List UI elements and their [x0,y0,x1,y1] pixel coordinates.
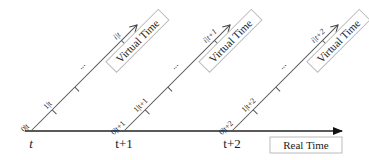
virtual-axis-t: 0|t 1|t ... i|t Virtual Time [16,0,169,149]
virtual-tick-ellipsis: ... [168,59,180,71]
real-tick-t: t [29,136,33,151]
virtual-tick-0: 0|t+1 [109,119,127,137]
virtual-tick-ellipsis: ... [276,59,288,71]
virtual-axis-t2: 0|t+2 1|t+2 ... i|t+2 Virtual Time [213,0,369,152]
real-time-label: Real Time [283,139,329,151]
virtual-tick-0: 0|t+2 [217,119,235,137]
virtual-time-label-box: Virtual Time [106,9,169,72]
virtual-axis-t1: 0|t+1 1|t+1 ... i|t+1 Virtual Time [105,0,261,152]
real-tick-t1: t+1 [115,136,132,151]
real-tick-t2: t+2 [223,136,240,151]
virtual-tick-0: 0|t [19,121,31,133]
virtual-tick-i: i|t [111,30,123,42]
real-time-label-box: Real Time [270,137,342,153]
virtual-tick-ellipsis: ... [75,59,87,71]
virtual-time-diagram: t t+1 t+2 Real Time 0|t 1|t ... i|t Virt… [0,0,369,160]
